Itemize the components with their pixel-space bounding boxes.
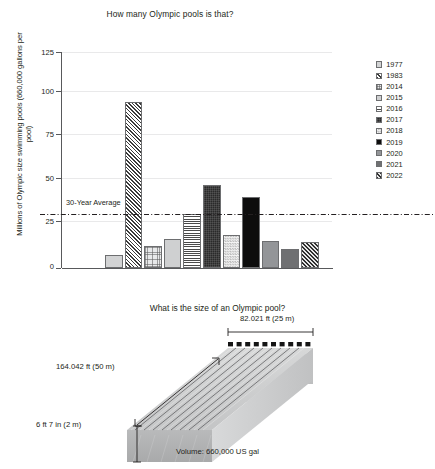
- legend-swatch-icon-2022: [376, 172, 382, 178]
- bar-2014: [144, 246, 162, 268]
- legend-swatch-icon-2014: [376, 84, 382, 90]
- legend-item-2020[interactable]: 2020: [376, 148, 434, 159]
- legend-swatch-icon-2019: [376, 139, 382, 145]
- bar-1983: [125, 102, 143, 268]
- y-axis-title: Millions of Olympic size swimming pools …: [15, 25, 33, 243]
- gridline-100: [62, 91, 332, 92]
- bar-2017: [203, 185, 221, 268]
- thirty-year-average-line: [40, 213, 435, 216]
- olympic-pools-bar-chart: How many Olympic pools is that? 125 100 …: [0, 0, 435, 290]
- legend-item-2015[interactable]: 2015: [376, 92, 434, 103]
- gridline-75: [62, 134, 332, 135]
- chart-legend: 1977198320142015201620172018201920202021…: [376, 59, 434, 181]
- olympic-pool-diagram: What is the size of an Olympic pool?: [0, 290, 435, 469]
- pool-depth-label: 6 ft 7 in (2 m): [36, 420, 81, 429]
- legend-item-2019[interactable]: 2019: [376, 137, 434, 148]
- legend-label-1977: 1977: [386, 61, 402, 68]
- gridline-125: [62, 52, 332, 53]
- bar-1977: [105, 255, 123, 268]
- legend-swatch-icon-2015: [376, 95, 382, 101]
- legend-label-1983: 1983: [386, 72, 402, 79]
- x-axis-line: [62, 268, 333, 269]
- bar-2018: [223, 235, 241, 268]
- gridline-50: [62, 178, 332, 179]
- bar-2022: [301, 242, 319, 268]
- pool-volume-label: Volume: 660,000 US gal: [0, 447, 435, 456]
- legend-swatch-icon-2020: [376, 150, 382, 156]
- legend-item-2014[interactable]: 2014: [376, 81, 434, 92]
- legend-swatch-icon-2021: [376, 161, 382, 167]
- legend-swatch-icon-1977: [376, 61, 382, 67]
- legend-label-2017: 2017: [386, 116, 402, 123]
- legend-item-2021[interactable]: 2021: [376, 159, 434, 170]
- pool-length-label: 164.042 ft (50 m): [56, 362, 115, 371]
- thirty-year-average-label: 30-Year Average: [66, 198, 121, 207]
- y-tick-0: 0: [8, 262, 54, 271]
- legend-label-2016: 2016: [386, 105, 402, 112]
- legend-swatch-icon-2016: [376, 106, 382, 112]
- bar-2015: [164, 239, 182, 268]
- legend-label-2022: 2022: [386, 172, 402, 179]
- legend-item-2022[interactable]: 2022: [376, 170, 434, 181]
- bar-2019: [242, 197, 260, 268]
- legend-label-2019: 2019: [386, 139, 402, 146]
- legend-item-1983[interactable]: 1983: [376, 70, 434, 81]
- legend-item-2017[interactable]: 2017: [376, 114, 434, 125]
- legend-item-2016[interactable]: 2016: [376, 103, 434, 114]
- y-tick-mark-0: [56, 268, 61, 269]
- pool-width-label: 82.021 ft (25 m): [240, 314, 294, 323]
- legend-label-2021: 2021: [386, 161, 402, 168]
- bar-2016: [183, 214, 201, 268]
- legend-swatch-icon-1983: [376, 73, 382, 79]
- legend-item-2018[interactable]: 2018: [376, 126, 434, 137]
- legend-swatch-icon-2017: [376, 117, 382, 123]
- bar-2020: [262, 241, 280, 268]
- legend-label-2020: 2020: [386, 150, 402, 157]
- legend-label-2018: 2018: [386, 127, 402, 134]
- legend-label-2015: 2015: [386, 94, 402, 101]
- legend-swatch-icon-2018: [376, 128, 382, 134]
- bar-2021: [281, 249, 299, 268]
- legend-item-1977[interactable]: 1977: [376, 59, 434, 70]
- plot-area: [62, 52, 332, 268]
- pool-3d-illustration: [0, 290, 435, 469]
- legend-label-2014: 2014: [386, 83, 402, 90]
